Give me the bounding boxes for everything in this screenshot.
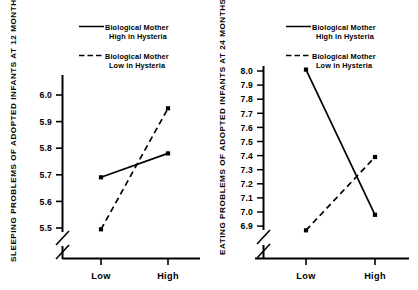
right-xtick-label-low: Low (296, 271, 316, 281)
right-ytick-label-10: 7.0 (240, 207, 253, 217)
two-panel-line-chart-figure: SLEEPING PROBLEMS OF ADOPTED INFANTS AT … (0, 0, 418, 290)
legend-item-1-line1: Biological Mother (312, 23, 376, 32)
left-ytick-label-2: 5.8 (39, 143, 52, 153)
left-ytick-label-5: 5.5 (39, 223, 52, 233)
right-ytick-label-7: 7.3 (240, 165, 253, 175)
left-y-ticks: 6.0 5.9 5.8 5.7 5.6 5.5 (39, 90, 62, 233)
right-panel-svg: EATING PROBLEMS OF ADOPTED INFANTS AT 24… (209, 0, 418, 290)
right-dashed-marker-low (304, 228, 308, 232)
left-x-ticks: Low High (91, 259, 179, 282)
right-dashed-marker-high (373, 155, 377, 159)
left-ytick-label-4: 5.6 (39, 197, 52, 207)
legend-item-2-line2: Low in Hysteria (316, 61, 373, 70)
right-solid-marker-high (373, 213, 377, 217)
left-panel: SLEEPING PROBLEMS OF ADOPTED INFANTS AT … (0, 0, 209, 290)
legend-item-1-line1: Biological Mother (105, 23, 169, 32)
left-dashed-marker-low (99, 227, 103, 231)
legend-item-1-line2: High in Hysteria (316, 32, 375, 41)
left-solid-line (101, 153, 168, 177)
legend-item-2-line1: Biological Mother (312, 52, 376, 61)
left-solid-marker-high (166, 151, 170, 155)
right-series-high-hysteria (304, 68, 377, 217)
left-solid-marker-low (99, 175, 103, 179)
right-y-ticks: 8.0 7.9 7.8 7.7 7.6 7.5 7.4 7.3 7.2 7. (240, 66, 263, 231)
right-ytick-label-4: 7.6 (240, 123, 253, 133)
right-solid-marker-low (304, 68, 308, 72)
right-xtick-label-high: High (364, 271, 386, 281)
right-panel: EATING PROBLEMS OF ADOPTED INFANTS AT 24… (209, 0, 418, 290)
left-xtick-label-low: Low (91, 271, 111, 281)
right-ytick-label-3: 7.7 (240, 109, 253, 119)
left-series-low-hysteria (99, 106, 170, 231)
left-dashed-marker-high (166, 106, 170, 110)
right-ytick-label-6: 7.4 (240, 151, 253, 161)
right-ytick-label-9: 7.1 (240, 193, 253, 203)
left-legend: Biological Mother High in Hysteria Biolo… (79, 23, 169, 70)
right-legend: Biological Mother High in Hysteria Biolo… (286, 23, 376, 70)
right-ytick-label-8: 7.2 (240, 179, 253, 189)
right-ytick-label-5: 7.5 (240, 137, 253, 147)
left-series-high-hysteria (99, 151, 170, 179)
left-panel-svg: SLEEPING PROBLEMS OF ADOPTED INFANTS AT … (0, 0, 209, 290)
legend-item-2-line1: Biological Mother (105, 52, 169, 61)
legend-item-2-line2: Low in Hysteria (109, 61, 166, 70)
right-ytick-label-0: 8.0 (240, 66, 253, 76)
left-y-axis-title: SLEEPING PROBLEMS OF ADOPTED INFANTS AT … (9, 0, 18, 262)
right-series-low-hysteria (304, 155, 377, 233)
legend-item-1-line2: High in Hysteria (109, 32, 168, 41)
left-axis-break-slash-1 (56, 231, 69, 245)
left-xtick-label-high: High (157, 271, 179, 281)
right-x-ticks: Low High (296, 259, 386, 282)
right-ytick-label-2: 7.8 (240, 94, 253, 104)
right-axis-break-slash-1 (257, 230, 270, 244)
right-ytick-label-1: 7.9 (240, 80, 253, 90)
left-ytick-label-0: 6.0 (39, 90, 52, 100)
left-ytick-label-1: 5.9 (39, 117, 52, 127)
right-ytick-label-11: 6.9 (240, 221, 253, 231)
left-dashed-line (101, 108, 168, 229)
right-y-axis-title: EATING PROBLEMS OF ADOPTED INFANTS AT 24… (218, 0, 227, 255)
left-ytick-label-3: 5.7 (39, 170, 52, 180)
